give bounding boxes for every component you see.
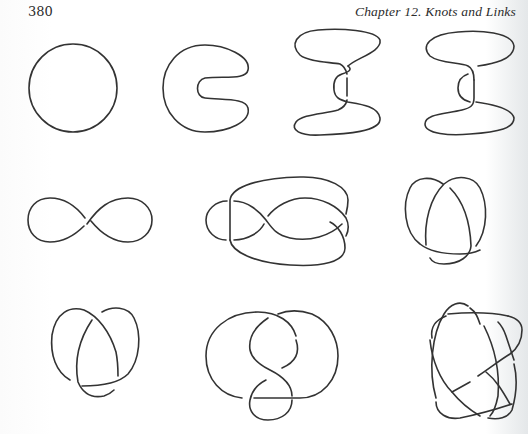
figure-star-knot <box>430 303 522 419</box>
knot-figures <box>0 0 528 434</box>
figure-unknot-figure-eight <box>28 198 152 242</box>
figure-unknot-circle <box>29 44 117 132</box>
figure-knot-diagram-b <box>206 177 348 265</box>
figure-knot-diagram-c <box>206 311 338 420</box>
figure-unknot-s-fold-2 <box>425 31 514 134</box>
figure-trefoil-2 <box>52 308 139 397</box>
figure-unknot-c-shape <box>163 45 248 132</box>
figure-unknot-s-fold-1 <box>294 29 380 135</box>
figure-trefoil-1 <box>405 178 485 264</box>
book-page: 380 Chapter 12. Knots and Links <box>0 0 528 434</box>
